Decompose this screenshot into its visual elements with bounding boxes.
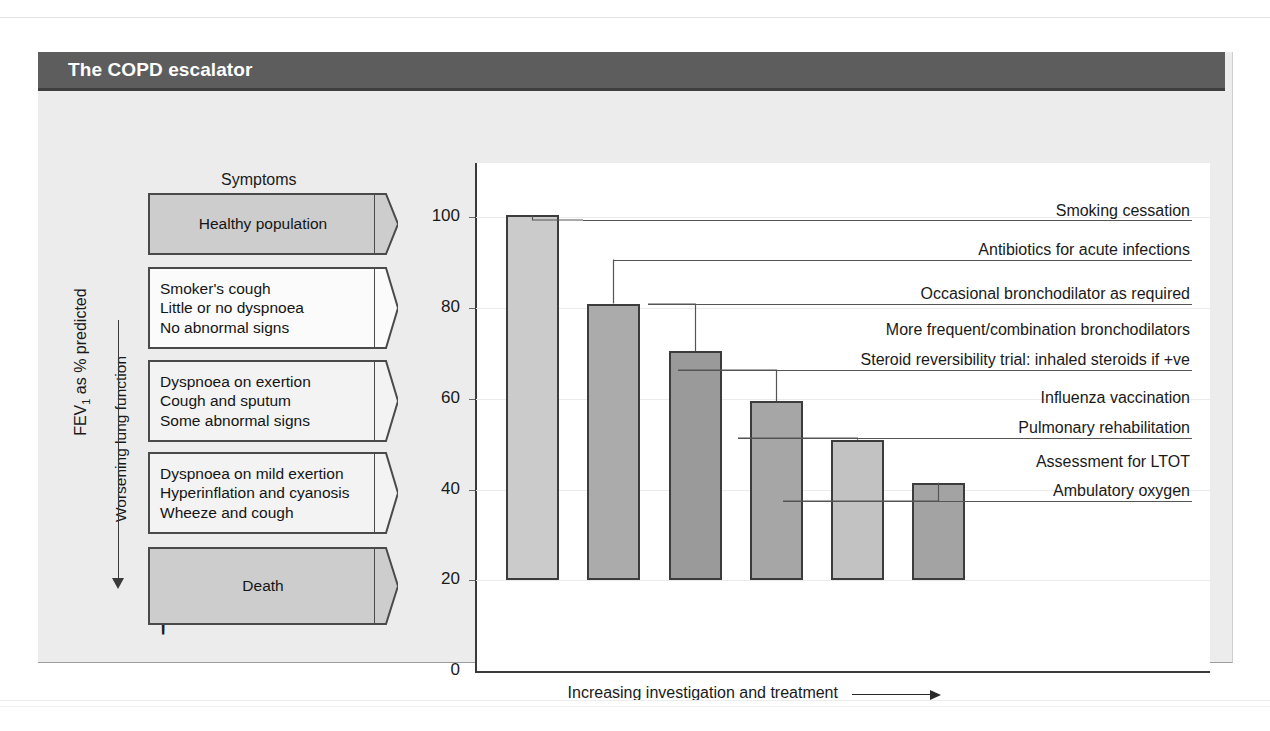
bar-6	[912, 483, 965, 581]
right-arrow-icon	[852, 690, 944, 698]
y-tick-label-20: 20	[416, 569, 460, 589]
bar-2	[587, 304, 640, 581]
bar-1	[506, 215, 559, 580]
y-tick-label-40: 40	[416, 479, 460, 499]
stage-label: Death	[242, 576, 303, 596]
gridline-20	[476, 580, 1210, 581]
treatment-rule-7	[738, 438, 1192, 439]
x-axis-caption-text: Increasing investigation and treatment	[568, 684, 838, 701]
stage-arrow-tip	[374, 547, 398, 625]
figure-title-bar: The COPD escalator	[38, 52, 1225, 91]
page-bottom-rule-2	[0, 706, 1270, 707]
treatment-label-5: Steroid reversibility trial: inhaled ste…	[861, 351, 1190, 369]
stage-arrow-tip	[374, 193, 398, 255]
treatment-rule-9	[783, 501, 1192, 502]
treatment-label-4: More frequent/combination bronchodilator…	[886, 321, 1190, 339]
figure-panel: The COPD escalator Symptoms Worsening lu…	[38, 52, 1233, 663]
y-tick-mark-20	[469, 580, 475, 581]
bar-4	[750, 401, 803, 580]
symptom-stage-5: Death	[148, 547, 398, 625]
treatment-rule-2	[613, 260, 1192, 261]
y-tick-label-80: 80	[416, 297, 460, 317]
bar-5	[831, 440, 884, 581]
treatment-label-2: Antibiotics for acute infections	[978, 241, 1190, 259]
y-tick-mark-100	[469, 217, 475, 218]
stage-label: Dyspnoea on mild exertionHyperinflation …	[148, 464, 398, 523]
bar-3	[669, 351, 722, 580]
y-tick-label-100: 100	[416, 206, 460, 226]
treatment-rule-3	[648, 304, 1192, 305]
down-arrow-icon	[112, 578, 124, 589]
worsening-lung-function-axis: Worsening lung function	[96, 320, 122, 584]
x-axis-line	[475, 671, 1210, 673]
treatment-rule-1	[583, 220, 1192, 221]
stage-label: Smoker's coughLittle or no dyspnoeaNo ab…	[148, 279, 398, 338]
symptoms-heading: Symptoms	[221, 171, 297, 189]
down-arrow-shaft	[118, 320, 119, 584]
y-tick-mark-80	[469, 308, 475, 309]
y-axis-title: FEV1 as % predicted	[72, 232, 92, 492]
y-tick-label-0: 0	[416, 660, 460, 680]
symptom-stage-3: Dyspnoea on exertionCough and sputumSome…	[148, 360, 398, 442]
page-bottom-rule-1	[0, 700, 1270, 701]
figure-title: The COPD escalator	[68, 59, 252, 81]
treatment-label-9: Ambulatory oxygen	[1053, 482, 1190, 500]
y-tick-mark-60	[469, 399, 475, 400]
treatment-label-7: Pulmonary rehabilitation	[1018, 419, 1190, 437]
symptom-stage-4: Dyspnoea on mild exertionHyperinflation …	[148, 452, 398, 534]
treatment-rule-5	[678, 370, 1192, 371]
y-tick-label-60: 60	[416, 388, 460, 408]
symptom-stage-2: Smoker's coughLittle or no dyspnoeaNo ab…	[148, 267, 398, 349]
y-axis-line	[475, 163, 477, 672]
worsening-lung-function-label: Worsening lung function	[112, 314, 130, 564]
treatment-label-1: Smoking cessation	[1056, 202, 1190, 220]
page-top-rule	[0, 17, 1270, 18]
y-tick-mark-40	[469, 490, 475, 491]
symptom-stage-1: Healthy population	[148, 193, 398, 255]
treatment-label-6: Influenza vaccination	[1041, 389, 1190, 407]
stage-label: Healthy population	[199, 214, 347, 234]
treatment-label-8: Assessment for LTOT	[1036, 453, 1190, 471]
treatment-label-3: Occasional bronchodilator as required	[921, 285, 1190, 303]
stage-label: Dyspnoea on exertionCough and sputumSome…	[148, 372, 398, 431]
